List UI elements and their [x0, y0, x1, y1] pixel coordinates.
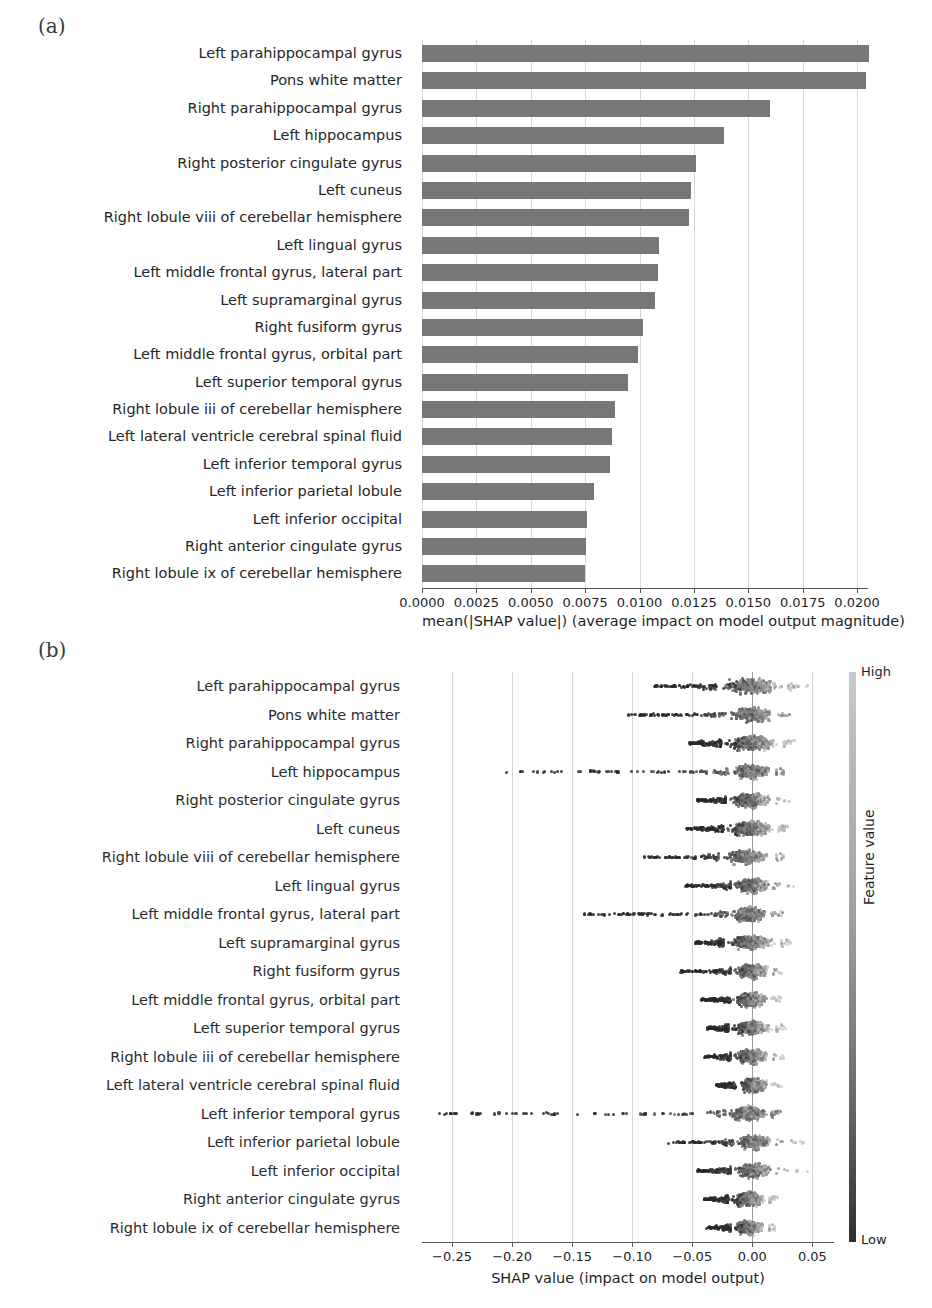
swarm-point [771, 914, 774, 917]
category-label: Left lingual gyrus [0, 232, 412, 259]
swarm-point [737, 948, 740, 951]
swarm-point [762, 718, 765, 721]
swarm-point [758, 1002, 761, 1005]
swarm-point [784, 1027, 787, 1030]
swarm-point [779, 910, 782, 913]
swarm-point [701, 799, 704, 802]
swarm-point [653, 913, 656, 916]
swarm-point [789, 740, 792, 743]
category-label: Left inferior parietal lobule [0, 478, 412, 505]
swarm-row [422, 786, 834, 815]
swarm-point [778, 686, 781, 689]
swarm-point [772, 973, 775, 976]
swarm-point [719, 915, 722, 918]
x-tick-label: 0.0075 [562, 595, 608, 610]
swarm-point [753, 884, 756, 887]
swarm-row [422, 957, 834, 986]
swarm-point [796, 1170, 799, 1173]
swarm-point [694, 857, 697, 860]
swarm-point [726, 1200, 729, 1203]
swarm-point [744, 1001, 747, 1004]
swarm-point [710, 1027, 713, 1030]
swarm-row [422, 758, 834, 787]
swarm-point [768, 681, 771, 684]
x-tick-mark [857, 588, 858, 593]
swarm-point [733, 851, 736, 854]
swarm-point [773, 942, 776, 945]
x-tick-mark [640, 588, 641, 593]
swarm-point [681, 1113, 684, 1116]
swarm-point [695, 885, 698, 888]
x-tick-mark [694, 588, 695, 593]
panel-b-plot-area [422, 672, 834, 1242]
swarm-point [741, 686, 744, 689]
swarm-point [723, 1226, 726, 1229]
swarm-point [632, 912, 635, 915]
swarm-point [777, 1085, 780, 1088]
bar [422, 127, 724, 144]
swarm-point [751, 709, 754, 712]
swarm-point [765, 886, 768, 889]
swarm-row [422, 1214, 834, 1243]
swarm-point [780, 939, 783, 942]
swarm-point [746, 827, 749, 830]
swarm-point [556, 1112, 559, 1115]
swarm-point [719, 744, 722, 747]
swarm-point [705, 772, 708, 775]
swarm-point [693, 1141, 696, 1144]
colorbar-high-label: High [861, 664, 891, 679]
swarm-point [532, 770, 535, 773]
swarm-point [719, 998, 722, 1001]
x-tick-label: 0.0175 [780, 595, 826, 610]
category-label: Left inferior parietal lobule [0, 1128, 412, 1157]
swarm-point [774, 1083, 777, 1086]
swarm-point [505, 771, 508, 774]
swarm-point [752, 1192, 755, 1195]
bar-row [422, 423, 868, 450]
swarm-point [642, 770, 645, 773]
category-label: Right posterior cingulate gyrus [0, 786, 412, 815]
swarm-point [493, 1112, 496, 1115]
swarm-point [724, 712, 727, 715]
swarm-point [746, 1145, 749, 1148]
swarm-point [530, 1112, 533, 1115]
category-label: Right lobule viii of cerebellar hemisphe… [0, 843, 412, 872]
x-tick-mark [812, 1242, 813, 1247]
swarm-point [780, 914, 783, 917]
x-tick-label: −0.15 [552, 1249, 592, 1264]
bar-row [422, 150, 868, 177]
swarm-point [728, 678, 731, 681]
swarm-point [750, 1201, 753, 1204]
swarm-point [764, 770, 767, 773]
swarm-point [729, 824, 732, 827]
swarm-point [763, 1143, 766, 1146]
swarm-point [692, 741, 695, 744]
category-label: Left middle frontal gyrus, lateral part [0, 900, 412, 929]
swarm-point [732, 829, 735, 832]
category-label: Left middle frontal gyrus, orbital part [0, 986, 412, 1015]
category-label: Left parahippocampal gyrus [0, 40, 412, 67]
swarm-point [723, 1142, 726, 1145]
x-tick-label: 0.0100 [617, 595, 663, 610]
swarm-point [692, 684, 695, 687]
swarm-point [686, 685, 689, 688]
swarm-point [753, 970, 756, 973]
x-tick-mark [422, 588, 423, 593]
swarm-point [700, 742, 703, 745]
swarm-point [754, 1198, 757, 1201]
swarm-point [751, 716, 754, 719]
swarm-point [750, 880, 753, 883]
category-label: Left hippocampus [0, 758, 412, 787]
swarm-point [763, 940, 766, 943]
swarm-point [742, 1165, 745, 1168]
category-label: Right lobule ix of cerebellar hemisphere [0, 1214, 412, 1243]
category-label: Right lobule ix of cerebellar hemisphere [0, 560, 412, 587]
panel-a-bars [422, 40, 868, 588]
swarm-point [729, 686, 732, 689]
swarm-point [743, 1107, 746, 1110]
panel-b-category-labels: Left parahippocampal gyrusPons white mat… [0, 672, 412, 1242]
swarm-point [713, 684, 716, 687]
swarm-point [739, 709, 742, 712]
swarm-point [765, 766, 768, 769]
swarm-point [703, 1141, 706, 1144]
